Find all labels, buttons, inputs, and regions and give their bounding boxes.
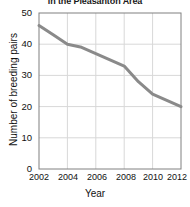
axis-frame — [39, 13, 181, 169]
plot-area — [0, 0, 190, 207]
gridlines — [39, 13, 181, 169]
chart-figure: in the Pleasanton Area Number of breedin… — [0, 0, 190, 207]
data-series-line — [39, 25, 181, 106]
